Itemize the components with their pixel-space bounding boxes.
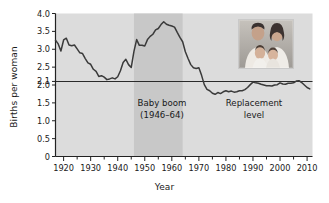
baby-boom-band (134, 14, 183, 157)
x-tick-label-1930: 1930 (80, 163, 101, 173)
y-tick-label-2.5: 2.5 (37, 62, 50, 72)
y-tick-label-4.0: 4.0 (37, 9, 50, 19)
y-tick-label-3.5: 3.5 (37, 26, 50, 36)
x-tick-label-1990: 1990 (243, 163, 264, 173)
x-tick-label-2010: 2010 (297, 163, 318, 173)
y-tick-label-0.5: 0.5 (37, 134, 50, 144)
y-tick-label-2.1: 2.1 (37, 76, 50, 86)
replacement-level-annotation: Replacement level (208, 98, 300, 121)
x-tick-label-1980: 1980 (216, 163, 237, 173)
y-tick-label-1.0: 1.0 (37, 116, 50, 126)
fertility-rate-chart-figure: Births per woman Year 00.51.01.52.02.12.… (0, 0, 329, 203)
family-photo (238, 19, 294, 69)
y-tick-label-0: 0 (45, 152, 50, 162)
x-tick-label-1940: 1940 (107, 163, 128, 173)
replacement-level-annotation-line2: level (208, 110, 300, 122)
x-tick-label-1920: 1920 (53, 163, 74, 173)
baby-boom-annotation-line2: (1946–64) (112, 110, 212, 122)
baby-boom-annotation-line1: Baby boom (112, 98, 212, 110)
x-tick-label-2000: 2000 (270, 163, 291, 173)
family-photo-illustration (239, 20, 293, 68)
y-tick-label-3.0: 3.0 (37, 44, 50, 54)
baby-boom-annotation: Baby boom (1946–64) (112, 98, 212, 121)
x-tick-label-1950: 1950 (134, 163, 155, 173)
x-tick-label-1970: 1970 (188, 163, 209, 173)
replacement-level-annotation-line1: Replacement (208, 98, 300, 110)
y-tick-label-1.5: 1.5 (37, 98, 50, 108)
x-tick-label-1960: 1960 (161, 163, 182, 173)
